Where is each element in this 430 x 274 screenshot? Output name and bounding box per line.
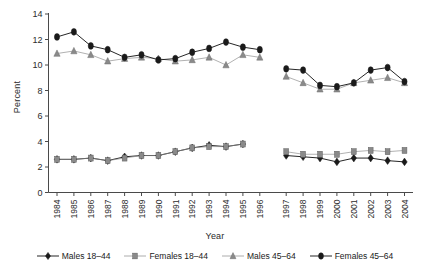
x-axis-tick-label: 1994 (221, 199, 231, 218)
x-axis-tick-label: 1999 (315, 199, 325, 218)
x-axis-tick-label: 1992 (187, 199, 197, 218)
series-circle (57, 32, 405, 87)
y-axis-tick-label: 2 (37, 162, 42, 172)
x-axis-title: Year (185, 231, 245, 241)
x-axis-tick-label: 1998 (298, 199, 308, 218)
x-axis-tick-label: 1990 (154, 199, 164, 218)
y-axis-tick-label: 8 (37, 86, 42, 96)
chart-container: 0246810121419841985198619871988198919901… (0, 0, 430, 274)
legend-label: Females 18–44 (149, 251, 208, 261)
y-axis-tick-label: 10 (32, 60, 42, 70)
x-axis-tick-label: 1996 (255, 199, 265, 218)
legend-item-square: Females 18–44 (124, 250, 208, 262)
y-axis-tick-label: 12 (32, 35, 42, 45)
x-axis-tick-label: 2003 (383, 199, 393, 218)
legend-marker-diamond-icon (37, 250, 59, 262)
x-axis-tick-label: 1995 (238, 199, 248, 218)
x-axis-tick-label: 2001 (349, 199, 359, 218)
x-axis-tick-label: 1997 (281, 199, 291, 218)
x-axis-tick-label: 2000 (332, 199, 342, 218)
legend-item-circle: Females 45–64 (310, 250, 394, 262)
x-axis-tick-label: 1989 (137, 199, 147, 218)
series-line (57, 144, 243, 161)
y-axis-tick-label: 0 (37, 188, 42, 198)
legend-label: Males 45–64 (247, 251, 296, 261)
y-axis-title: Percent (12, 67, 22, 127)
legend-item-triangle: Males 45–64 (222, 250, 296, 262)
y-axis-tick-label: 14 (32, 9, 42, 19)
x-axis-tick-label: 2004 (400, 199, 410, 218)
legend-marker-circle-icon (310, 250, 332, 262)
x-axis-tick-label: 1984 (52, 199, 62, 218)
x-axis-tick-label: 1987 (103, 199, 113, 218)
y-axis-tick-label: 4 (37, 137, 42, 147)
x-axis-tick-label: 1993 (204, 199, 214, 218)
x-axis-tick-label: 1988 (120, 199, 130, 218)
legend-label: Males 18–44 (62, 251, 111, 261)
legend-item-diamond: Males 18–44 (37, 250, 111, 262)
chart-legend: Males 18–44Females 18–44Males 45–64Femal… (0, 250, 430, 262)
x-axis-tick-label: 1986 (86, 199, 96, 218)
legend-label: Females 45–64 (335, 251, 394, 261)
x-axis-tick-label: 1991 (171, 199, 181, 218)
y-axis-tick-label: 6 (37, 111, 42, 121)
legend-marker-square-icon (124, 250, 146, 262)
legend-marker-triangle-icon (222, 250, 244, 262)
x-axis-tick-label: 2002 (366, 199, 376, 218)
x-axis-tick-label: 1985 (69, 199, 79, 218)
